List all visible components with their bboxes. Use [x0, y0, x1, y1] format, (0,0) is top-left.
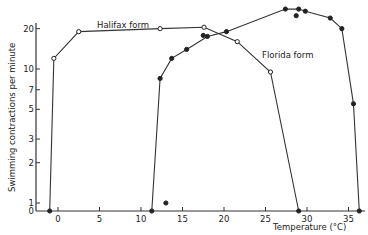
data-point — [328, 16, 332, 20]
x-tick-label: 15 — [177, 214, 188, 224]
y-tick-label: 5 — [29, 104, 34, 114]
y-axis-label: Swimming contractions per minute — [7, 43, 17, 192]
data-point — [150, 209, 154, 213]
x-axis-label: Temperature (°C) — [272, 222, 346, 232]
data-point — [294, 14, 298, 18]
x-tick-label: 5 — [97, 214, 102, 224]
series — [48, 7, 362, 213]
data-point — [185, 47, 189, 51]
y-tick-label: 2 — [29, 158, 34, 168]
data-point — [201, 33, 205, 37]
y-tick-label: 3 — [29, 134, 34, 144]
x-tick-label: 25 — [260, 214, 271, 224]
data-point — [164, 201, 168, 205]
data-point — [235, 40, 239, 44]
data-point — [202, 25, 206, 29]
data-point — [48, 209, 52, 213]
chart: 051015202530350123571020 Halifax form Fl… — [0, 0, 368, 235]
data-point — [224, 30, 228, 34]
data-point — [158, 27, 162, 31]
data-point — [357, 209, 361, 213]
x-tick-label: 0 — [55, 214, 60, 224]
data-point — [351, 102, 355, 106]
data-point — [205, 34, 209, 38]
data-point — [297, 7, 301, 11]
series-label-florida: Florida form — [262, 50, 313, 60]
data-point — [77, 30, 81, 34]
data-point — [303, 9, 307, 13]
x-tick-label: 20 — [219, 214, 230, 224]
data-point — [158, 76, 162, 80]
y-tick-label: 10 — [23, 64, 34, 74]
y-tick-label: 1 — [29, 198, 34, 208]
data-point — [340, 27, 344, 31]
data-point — [170, 56, 174, 60]
y-tick-label: 7 — [29, 85, 34, 95]
x-tick-label: 10 — [136, 214, 147, 224]
y-tick-label: 20 — [23, 24, 34, 34]
data-point — [283, 7, 287, 11]
data-point — [297, 209, 301, 213]
axes — [36, 23, 365, 211]
data-point — [52, 56, 56, 60]
data-point — [268, 70, 272, 74]
series-line — [152, 9, 360, 211]
series-label-halifax: Halifax form — [97, 20, 149, 30]
